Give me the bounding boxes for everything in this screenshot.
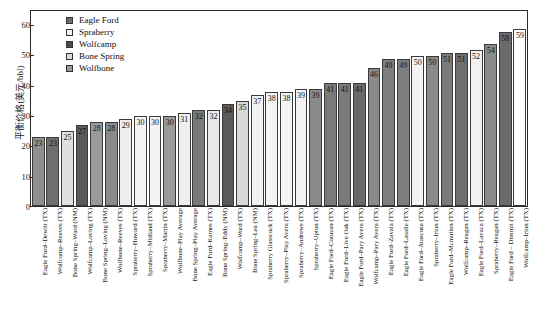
bar-value-label: 46 xyxy=(369,70,380,79)
bar-slot: 38 xyxy=(265,11,280,206)
bar-value-label: 27 xyxy=(77,127,88,136)
bar-slot: 30 xyxy=(148,11,163,206)
bar: 39 xyxy=(309,89,322,206)
bar: 35 xyxy=(236,101,249,206)
bar-value-label: 32 xyxy=(193,112,204,121)
y-tick-label: 40 xyxy=(0,81,30,91)
bar-slot: 52 xyxy=(469,11,484,206)
legend-item-wolfbone: Wolfbone xyxy=(66,62,124,74)
bar-value-label: 54 xyxy=(485,46,496,55)
x-label-slot: Eagle Ford–Karnes (TX) xyxy=(196,208,211,313)
bar-value-label: 30 xyxy=(135,118,146,127)
bar-slot: 30 xyxy=(133,11,148,206)
bar: 25 xyxy=(61,131,74,206)
bar-value-label: 23 xyxy=(47,139,58,148)
y-tick-label: 10 xyxy=(0,172,30,182)
bar-slot: 49 xyxy=(396,11,411,206)
legend-label: Wolfbone xyxy=(79,63,114,73)
legend-item-eagle-ford: Eagle Ford xyxy=(66,14,124,26)
x-label-slot: Spraberry–Upton (TX) xyxy=(302,208,317,313)
x-label-slot: Bone Spring–Eddy (NM) xyxy=(211,208,226,313)
bar-value-label: 58 xyxy=(500,34,511,43)
bar: 30 xyxy=(134,116,147,206)
y-tick-label: 20 xyxy=(0,141,30,151)
x-label-slot: Spraberry–Play Avera (TX) xyxy=(272,208,287,313)
bar-value-label: 39 xyxy=(310,91,321,100)
bar: 27 xyxy=(76,125,89,206)
x-label-slot: Eagle Ford–Lasalle (TX) xyxy=(392,208,407,313)
x-label-slot: Bone Spring–Loving (NM) xyxy=(91,208,106,313)
y-tick-label: 60 xyxy=(0,20,30,30)
x-label-slot: Wolfcamp–Loving (TX) xyxy=(76,208,91,313)
bar: 38 xyxy=(280,92,293,206)
x-label-slot: Wolfcamp–Ward (TX) xyxy=(226,208,241,313)
x-label-slot: Spraberry–Martin (TX) xyxy=(151,208,166,313)
bar-slot: 46 xyxy=(367,11,382,206)
bar: 51 xyxy=(441,53,454,206)
bar: 49 xyxy=(397,59,410,206)
bar: 23 xyxy=(32,137,45,206)
bar-slot: 41 xyxy=(337,11,352,206)
x-label-slot: Eagle Ford – Dimmit (TX) xyxy=(497,208,512,313)
x-label-slot: Wolfbone–Play Average xyxy=(166,208,181,313)
legend-item-spraberry: Spraberry xyxy=(66,26,124,38)
legend-swatch-icon xyxy=(66,41,73,48)
bar: 54 xyxy=(484,44,497,206)
bar-slot: 30 xyxy=(162,11,177,206)
bar: 46 xyxy=(368,68,381,206)
bar-value-label: 30 xyxy=(150,118,161,127)
bar: 31 xyxy=(178,113,191,206)
x-label-slot: Wolfcamp–Pary Avera (TX) xyxy=(362,208,377,313)
bar-slot: 31 xyxy=(177,11,192,206)
bar-value-label: 31 xyxy=(179,115,190,124)
x-label-slot: Eagle Ford–Mcmullen (TX) xyxy=(437,208,452,313)
bar: 50 xyxy=(426,56,439,206)
legend-swatch-icon xyxy=(66,29,73,36)
x-label-slot: Bone Spring–Play Average xyxy=(181,208,196,313)
x-label-slot: Spraberry–Andrews (TX) xyxy=(287,208,302,313)
bar: 28 xyxy=(105,122,118,206)
bar-slot: 41 xyxy=(323,11,338,206)
legend-label: Wolfcamp xyxy=(79,39,116,49)
bar-slot: 32 xyxy=(206,11,221,206)
bar-slot: 59 xyxy=(513,11,528,206)
bar: 41 xyxy=(353,83,366,206)
bar: 52 xyxy=(470,50,483,206)
bar: 49 xyxy=(382,59,395,206)
bar-slot: 39 xyxy=(294,11,309,206)
y-tick-label: 30 xyxy=(0,111,30,121)
legend-swatch-icon xyxy=(66,17,73,24)
x-label-slot: Eagle Ford–Lavaca (TX) xyxy=(467,208,482,313)
y-tick-label: 0 xyxy=(0,202,30,212)
legend-label: Spraberry xyxy=(79,27,115,37)
x-label-slot: Wolfcamp–Reeves (TX) xyxy=(46,208,61,313)
x-axis-labels: Eagle Ford–Dewitt (TX)Wolfcamp–Reeves (T… xyxy=(31,208,527,313)
x-tick-label: Wolfcamp–Irion (TX) xyxy=(522,208,529,268)
bar: 28 xyxy=(90,122,103,206)
legend-item-wolfcamp: Wolfcamp xyxy=(66,38,124,50)
bar-slot: 50 xyxy=(425,11,440,206)
bar-value-label: 32 xyxy=(208,112,219,121)
bar-slot: 50 xyxy=(410,11,425,206)
bar-value-label: 38 xyxy=(281,94,292,103)
bar-value-label: 28 xyxy=(106,124,117,133)
bar: 34 xyxy=(222,104,235,206)
chart-legend: Eagle FordSpraberryWolfcampBone SpringWo… xyxy=(66,14,124,74)
bar-value-label: 34 xyxy=(223,106,234,115)
x-label-slot: Eagle Ford–Atascosa (TX) xyxy=(407,208,422,313)
x-label-slot: Wolfbone–Reeves (TX) xyxy=(106,208,121,313)
bar: 30 xyxy=(149,116,162,206)
bar-chart: 平衡价格(美元/bbl) 0102030405060 2323252728282… xyxy=(0,0,535,313)
bar-value-label: 39 xyxy=(296,91,307,100)
x-label-slot: Bone Spring–Ward (NM) xyxy=(61,208,76,313)
legend-label: Eagle Ford xyxy=(79,15,119,25)
x-label-slot: Bone Spring–Lea (NM) xyxy=(241,208,256,313)
bar-slot: 51 xyxy=(440,11,455,206)
y-tick-label: 50 xyxy=(0,50,30,60)
bar-value-label: 23 xyxy=(33,139,44,148)
bar-slot: 49 xyxy=(381,11,396,206)
x-label-slot: Spraberry–Howard (TX) xyxy=(121,208,136,313)
bar-value-label: 37 xyxy=(252,97,263,106)
bar-slot: 38 xyxy=(279,11,294,206)
legend-item-bone-spring: Bone Spring xyxy=(66,50,124,62)
